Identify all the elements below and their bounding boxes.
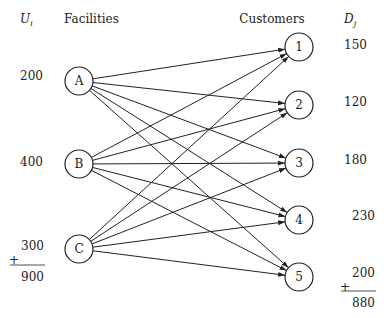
facility-node-a: A (65, 67, 93, 95)
edge-c-2 (91, 113, 288, 242)
customers-header: Customers (239, 12, 305, 26)
edge-b-4 (93, 167, 286, 216)
supply-value-c: 300 (21, 239, 44, 253)
facility-node-c: C (65, 235, 93, 263)
customer-label: 1 (295, 40, 303, 54)
supply-total: 900 (21, 270, 44, 284)
transportation-network-diagram: Ui Facilities Customers Dj A B C 1 2 3 4… (0, 0, 387, 318)
demand-value-1: 150 (344, 38, 367, 52)
edges-group (89, 49, 288, 275)
customer-label: 5 (295, 270, 303, 284)
customer-node-5: 5 (285, 263, 313, 291)
edge-c-5 (93, 251, 285, 275)
demand-value-3: 180 (344, 153, 367, 167)
edge-b-3 (93, 163, 285, 164)
customer-label: 2 (295, 98, 303, 112)
demand-value-5: 200 (352, 266, 375, 280)
edge-b-2 (93, 109, 286, 161)
demand-plus-sign: + (340, 280, 350, 294)
supply-value-a: 200 (20, 69, 43, 83)
edge-a-3 (92, 86, 286, 158)
demand-header: Dj (343, 12, 357, 28)
facilities-header: Facilities (64, 12, 119, 26)
edge-b-1 (91, 54, 286, 158)
facility-label: A (74, 74, 84, 88)
customer-node-4: 4 (285, 206, 313, 234)
facility-label: C (74, 242, 83, 256)
demand-value-4: 230 (352, 209, 375, 223)
edge-c-4 (93, 222, 285, 247)
edge-a-4 (91, 88, 287, 212)
facility-label: B (75, 157, 84, 171)
customer-label: 4 (295, 213, 303, 227)
customer-node-3: 3 (285, 149, 313, 177)
supply-header: Ui (20, 12, 33, 28)
demand-total: 880 (352, 296, 375, 310)
customer-node-2: 2 (285, 91, 313, 119)
edge-b-5 (91, 170, 286, 270)
edge-a-1 (93, 49, 285, 79)
supply-value-b: 400 (20, 155, 43, 169)
facility-node-b: B (65, 150, 93, 178)
customer-label: 3 (295, 156, 303, 170)
demand-value-2: 120 (344, 95, 367, 109)
customer-node-1: 1 (285, 33, 313, 61)
